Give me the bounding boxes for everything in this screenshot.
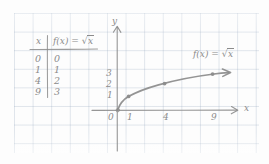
x-tick-label-4: 4	[163, 113, 169, 122]
table-cell-x-3: 9	[35, 87, 41, 97]
curve-label-sqrt-symbol: √x	[222, 48, 234, 59]
table-cell-x-1: 1	[35, 65, 41, 75]
table-header-rule	[30, 49, 98, 50]
y-tick-label-1: 1	[107, 91, 113, 100]
curve-label: f(x) = √x	[193, 50, 234, 59]
data-point-4-2	[163, 82, 167, 86]
x-tick-label-9: 9	[211, 113, 217, 122]
table-cell-x-2: 4	[35, 76, 41, 86]
table-header-fx-prefix: f(x) =	[53, 36, 82, 46]
table-cell-fx-3: 3	[54, 87, 60, 97]
curve-label-prefix: f(x) =	[193, 49, 222, 59]
data-point-1-1	[127, 95, 131, 99]
table-header-x: x	[36, 37, 41, 46]
sketch-figure: x f(x) = √x 0 1 4 9 0 1 2 3 y x 3 2 1 0 …	[0, 0, 269, 164]
data-point-9-3	[211, 72, 215, 76]
y-tick-label-3: 3	[106, 69, 112, 78]
y-axis-label: y	[112, 17, 117, 26]
table-header-radicand: x	[87, 35, 93, 46]
table-cell-x-0: 0	[35, 54, 41, 64]
x-tick-label-1: 1	[127, 113, 133, 122]
curve-label-radicand: x	[227, 48, 233, 59]
table-cell-fx-2: 2	[54, 76, 60, 86]
table-cell-fx-1: 1	[54, 65, 60, 75]
origin-label: 0	[108, 113, 114, 122]
sqrt-curve	[118, 73, 229, 111]
y-tick-label-2: 2	[106, 80, 112, 89]
table-header-sqrt-symbol: √x	[82, 35, 94, 46]
x-axis-label: x	[244, 104, 249, 113]
table-header-fx: f(x) = √x	[53, 37, 94, 46]
table-cell-fx-0: 0	[54, 54, 60, 64]
